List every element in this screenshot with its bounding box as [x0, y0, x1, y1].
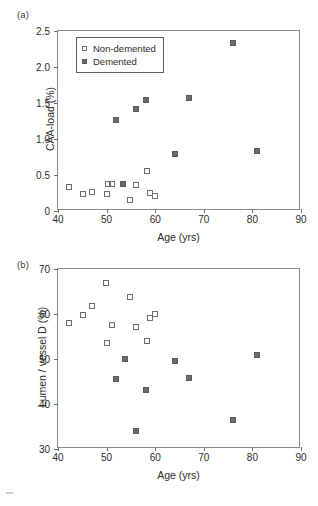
y-tick: [54, 314, 58, 315]
data-point-non-demented: [89, 189, 95, 195]
x-tick-label: 70: [198, 214, 209, 225]
data-point-non-demented: [80, 191, 86, 197]
plot-area-b: 4050607080903040506070: [58, 269, 299, 447]
y-axis-title-b: Lumen / vessel D (%): [36, 267, 48, 447]
data-point-demented: [172, 151, 178, 157]
data-point-demented: [230, 40, 236, 46]
data-point-demented: [120, 181, 126, 187]
x-tick: [155, 447, 156, 451]
x-tick: [204, 447, 205, 451]
data-point-non-demented: [104, 340, 110, 346]
data-point-non-demented: [133, 182, 139, 188]
x-tick-label: 80: [247, 214, 258, 225]
scan-artifact: [6, 492, 13, 494]
scatter-figure: (a) 40506070809000.51.01.52.02.5 Non-dem…: [0, 0, 318, 506]
data-point-demented: [133, 106, 139, 112]
y-tick: [54, 404, 58, 405]
data-point-demented: [254, 352, 260, 358]
x-tick: [58, 447, 59, 451]
data-point-non-demented: [127, 294, 133, 300]
legend-label-non-demented: Non-demented: [93, 43, 156, 54]
x-tick-label: 70: [198, 452, 209, 463]
data-point-non-demented: [109, 181, 115, 187]
x-tick: [107, 447, 108, 451]
data-point-demented: [143, 97, 149, 103]
x-axis-title-b: Age (yrs): [57, 469, 300, 481]
data-point-non-demented: [152, 311, 158, 317]
x-tick-label: 40: [52, 214, 63, 225]
data-point-non-demented: [66, 184, 72, 190]
panel-b-label: (b): [17, 259, 29, 270]
data-point-non-demented: [127, 197, 133, 203]
x-tick: [107, 209, 108, 213]
y-tick: [54, 211, 58, 212]
data-point-demented: [143, 387, 149, 393]
y-tick: [54, 449, 58, 450]
x-tick-label: 50: [101, 452, 112, 463]
panel-a: (a) 40506070809000.51.01.52.02.5 Non-dem…: [0, 0, 318, 250]
x-tick: [301, 447, 302, 451]
panel-a-label: (a): [17, 9, 29, 20]
data-point-non-demented: [152, 193, 158, 199]
x-tick: [252, 209, 253, 213]
plot-frame-a: 40506070809000.51.01.52.02.5 Non-demente…: [57, 30, 300, 210]
legend-item-non-demented: Non-demented: [82, 42, 156, 55]
data-point-demented: [186, 375, 192, 381]
y-tick: [54, 269, 58, 270]
x-axis-title-a: Age (yrs): [57, 231, 300, 243]
x-tick: [301, 209, 302, 213]
data-point-non-demented: [89, 303, 95, 309]
x-tick-label: 90: [295, 452, 306, 463]
data-point-demented: [133, 428, 139, 434]
data-point-demented: [113, 117, 119, 123]
x-tick-label: 60: [150, 452, 161, 463]
plot-frame-b: 4050607080903040506070: [57, 268, 300, 448]
data-point-non-demented: [104, 191, 110, 197]
data-point-non-demented: [144, 338, 150, 344]
data-point-demented: [113, 376, 119, 382]
data-point-non-demented: [103, 280, 109, 286]
legend: Non-demented Demented: [76, 37, 164, 73]
x-tick-label: 80: [247, 452, 258, 463]
x-tick: [204, 209, 205, 213]
data-point-non-demented: [133, 324, 139, 330]
x-tick-label: 40: [52, 452, 63, 463]
data-point-non-demented: [80, 312, 86, 318]
data-point-non-demented: [66, 320, 72, 326]
x-tick: [155, 209, 156, 213]
y-axis-title-a: CAA-load (%): [44, 29, 56, 209]
data-point-demented: [172, 358, 178, 364]
data-point-non-demented: [144, 168, 150, 174]
legend-item-demented: Demented: [82, 55, 156, 68]
filled-square-marker-icon: [82, 59, 87, 64]
x-tick-label: 60: [150, 214, 161, 225]
open-square-marker-icon: [82, 46, 87, 51]
x-tick: [58, 209, 59, 213]
data-point-demented: [186, 95, 192, 101]
data-point-non-demented: [109, 322, 115, 328]
data-point-demented: [254, 148, 260, 154]
data-point-demented: [230, 417, 236, 423]
y-tick: [54, 359, 58, 360]
legend-label-demented: Demented: [93, 56, 137, 67]
x-tick-label: 50: [101, 214, 112, 225]
x-tick: [252, 447, 253, 451]
x-tick-label: 90: [295, 214, 306, 225]
data-point-demented: [122, 356, 128, 362]
